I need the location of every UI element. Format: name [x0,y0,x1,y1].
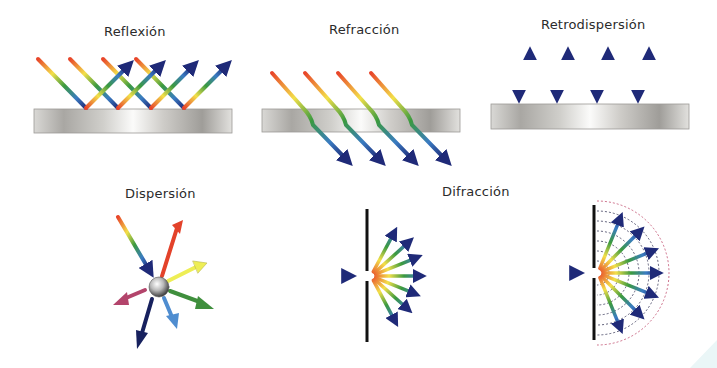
panel-retrodispersion [491,47,689,129]
scatter-ray-blue [164,298,172,317]
corner-decoration [690,340,717,368]
backscatter-surface [491,104,689,129]
reflected-beams [38,59,224,108]
scatter-ray-navy [142,299,152,333]
diffracted-rays [373,235,417,318]
optics-diagram [0,0,717,368]
panel-dispersion [113,217,214,349]
scatter-ray-red [162,228,177,276]
diffracted-rays-2 [600,221,654,325]
panel-refraccion [262,73,460,158]
mirror-surface [34,109,232,133]
panel-reflexion [34,59,232,133]
panel-difraccion-rays [274,209,417,342]
glass-slab [262,109,460,132]
backscatter-beams [519,47,649,103]
scatter-ray-yellow [168,267,196,281]
scatter-ray-green [170,291,200,302]
scattering-sphere [149,277,169,297]
panel-difraccion-wavefronts [502,201,669,345]
scatter-ray-magenta [126,290,145,298]
incoming-ray [118,217,148,268]
